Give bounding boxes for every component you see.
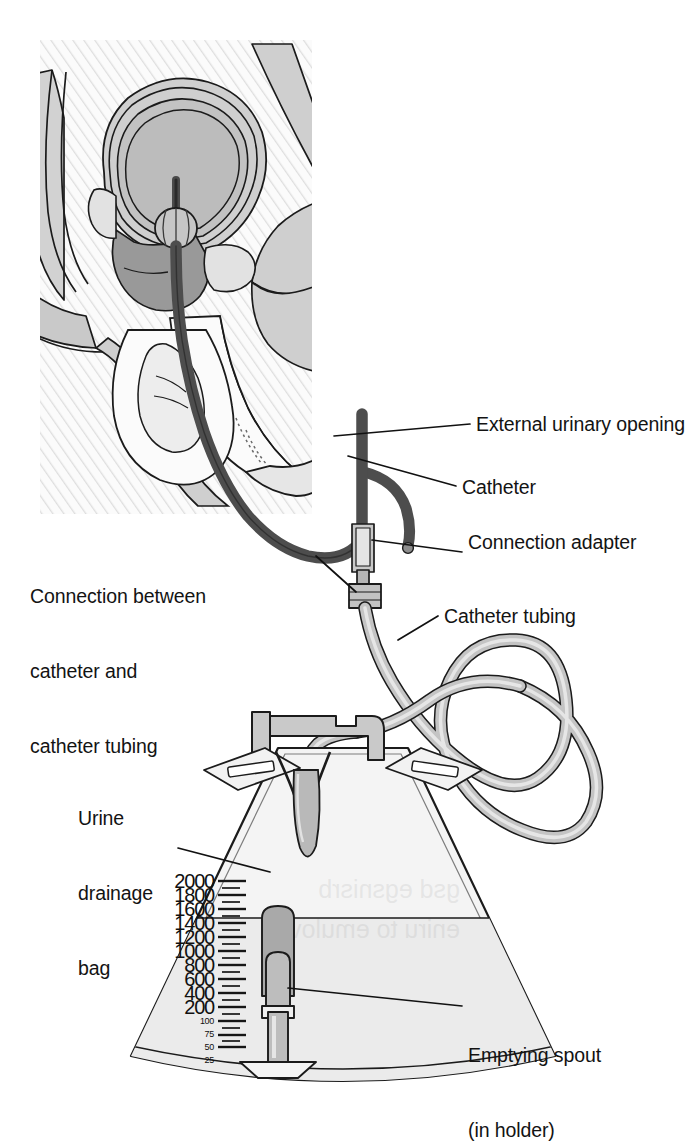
- bag-scale-minor-mark-25: 25: [180, 1055, 214, 1065]
- label-emptying-spout-line2: (in holder): [468, 1118, 601, 1143]
- bag-scale-minor-mark-75: 75: [180, 1029, 214, 1039]
- label-connection-between-catheter-and-tubing: Connection between catheter and catheter…: [30, 534, 320, 784]
- label-connection-between-line1: Connection between: [30, 584, 320, 609]
- label-emptying-spout: Emptying spout (in holder): [468, 993, 601, 1145]
- label-emptying-spout-line1: Emptying spout: [468, 1043, 601, 1068]
- label-urine-drainage-bag-line3: bag: [78, 956, 153, 981]
- leader-external-opening: [334, 424, 470, 436]
- label-connection-between-line2: catheter and: [30, 659, 320, 684]
- label-urine-drainage-bag-line2: drainage: [78, 881, 153, 906]
- svg-text:gsd egsnisrb: gsd egsnisrb: [318, 875, 460, 903]
- spout-highlight: [272, 1016, 276, 1058]
- adapter-highlight: [356, 528, 370, 566]
- label-connection-between-line3: catheter tubing: [30, 734, 320, 759]
- bag-scale-minor-mark-50: 50: [180, 1042, 214, 1052]
- label-urine-drainage-bag-line1: Urine: [78, 806, 153, 831]
- bag-scale-minor-mark-100: 100: [180, 1016, 214, 1026]
- label-urine-drainage-bag: Urine drainage bag: [78, 756, 153, 1006]
- label-external-urinary-opening: External urinary opening: [476, 412, 685, 437]
- label-catheter-tubing: Catheter tubing: [444, 604, 576, 629]
- spout-upper: [266, 952, 290, 1010]
- label-catheter: Catheter: [462, 475, 536, 500]
- svg-text:eniru to emulov: eniru to emulov: [289, 915, 460, 943]
- anatomy-panel: [24, 40, 352, 514]
- spout-nozzle: [268, 1012, 288, 1062]
- connection-adapter: [352, 524, 374, 586]
- leader-connection-adapter: [372, 540, 462, 552]
- label-connection-adapter: Connection adapter: [468, 530, 636, 555]
- leader-catheter-tubing: [398, 616, 438, 640]
